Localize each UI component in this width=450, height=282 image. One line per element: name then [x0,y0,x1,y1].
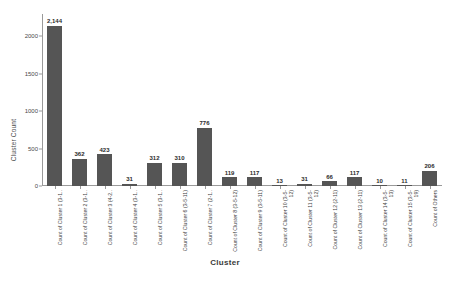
x-axis-tick-label: Count of Cluster 9 (3-5-11) [257,190,263,252]
bar[interactable] [72,159,88,186]
bar-value-label: 11 [401,178,407,184]
x-axis-tick-mark [355,186,356,189]
x-axis-tick-labels: Count of Cluster 1 (3-1..Count of Cluste… [42,190,442,252]
bar-value-label: 362 [74,151,84,157]
x-axis-tick-mark [330,186,331,189]
bar-group[interactable]: 119 [222,14,238,186]
bar[interactable] [347,177,363,186]
y-axis-tick-mark [39,73,42,74]
bar[interactable] [147,163,163,186]
bar-group[interactable]: 10 [372,14,388,186]
bar[interactable] [222,177,238,186]
bar-group[interactable]: 117 [247,14,263,186]
bar-value-label: 117 [350,170,360,176]
bar-value-label: 13 [276,178,283,184]
bar-value-label: 310 [174,155,184,161]
bar-value-label: 2,144 [47,18,62,24]
bar-value-label: 119 [225,170,235,176]
x-axis-tick-mark [305,186,306,189]
x-axis-tick-label: Count of Cluster 8 (3-5-12) [232,190,238,252]
x-axis-tick-mark [405,186,406,189]
bar-value-label: 66 [326,174,333,180]
y-axis-tick-label: 2000 [25,33,38,39]
bar-value-label: 117 [250,170,260,176]
bar[interactable] [97,154,113,186]
y-axis-tick-label: 0 [35,183,38,189]
bar-group[interactable]: 423 [97,14,113,186]
bar[interactable] [47,26,63,186]
x-axis-tick-mark [255,186,256,189]
y-axis-tick-label: 1000 [25,108,38,114]
y-axis-tick-label: 500 [28,146,38,152]
y-axis-tick-mark [39,111,42,112]
x-axis-tick-label: Count of Cluster 15 (3-5-19) [407,190,419,252]
x-axis-tick-label: Count of Cluster 4 (3-1.. [132,190,138,252]
y-axis-tick-mark [39,186,42,187]
bar-group[interactable]: 11 [397,14,413,186]
bar-value-label: 31 [301,176,308,182]
bar-group[interactable]: 66 [322,14,338,186]
x-axis-tick-label: Count of Cluster 1 (3-1.. [57,190,63,252]
x-axis-title: Cluster [0,258,450,267]
bar-value-label: 776 [199,120,209,126]
x-axis-tick-label: Count of Cluster 11 (3-5-12) [307,190,319,252]
bar[interactable] [172,163,188,186]
bar-value-label: 31 [126,176,133,182]
bar[interactable] [247,177,263,186]
x-axis-tick-label: Count of Cluster 5 (3-1.. [157,190,163,252]
bar[interactable] [422,171,438,186]
bar-value-label: 423 [99,147,109,153]
x-axis-tick-label: Count of Cluster 12 (2-11) [332,190,338,252]
bar-value-label: 10 [376,178,383,184]
bars-container: 2,14436242331312310776119117133166117101… [42,14,442,186]
bar-group[interactable]: 117 [347,14,363,186]
bar-group[interactable]: 31 [297,14,313,186]
bar-value-label: 206 [424,163,434,169]
bar[interactable] [197,128,213,186]
x-axis-tick-label: Count of Cluster 7 (2-1.. [207,190,213,252]
x-axis-tick-label: Count of Cluster 10 (3-5-12) [282,190,294,252]
x-axis-tick-label: Count of Others [432,190,438,252]
bar-group[interactable]: 776 [197,14,213,186]
x-axis-tick-label: Count of Cluster 2 (3-1.. [82,190,88,252]
x-axis-tick-label: Count of Cluster 3 (4-2.. [107,190,113,252]
y-axis-tick-mark [39,148,42,149]
x-axis-tick-mark [105,186,106,189]
x-axis-tick-mark [230,186,231,189]
bar-group[interactable]: 206 [422,14,438,186]
bar-group[interactable]: 312 [147,14,163,186]
y-axis-title: Cluster Count [10,80,17,200]
x-axis-tick-mark [55,186,56,189]
x-axis-tick-mark [130,186,131,189]
y-axis-tick-mark [39,36,42,37]
bar-group[interactable]: 362 [72,14,88,186]
bar-group[interactable]: 2,144 [47,14,63,186]
x-axis-tick-mark [80,186,81,189]
bar-value-label: 312 [149,155,159,161]
bar-chart: Cluster Count 2,144362423313123107761191… [0,0,450,282]
x-axis-tick-mark [180,186,181,189]
x-axis-tick-label: Count of Cluster 13 (2-11) [357,190,363,252]
x-axis-tick-mark [380,186,381,189]
bar-group[interactable]: 310 [172,14,188,186]
x-axis-tick-label: Count of Cluster 14 (3-5-13) [382,190,394,252]
x-axis-tick-mark [205,186,206,189]
bar-group[interactable]: 13 [272,14,288,186]
x-axis-tick-mark [155,186,156,189]
plot-area: 2,14436242331312310776119117133166117101… [42,14,442,186]
y-axis-tick-label: 1500 [25,71,38,77]
x-axis-tick-label: Count of Cluster 6 (3-5-11) [182,190,188,252]
x-axis-tick-mark [280,186,281,189]
x-axis-tick-mark [430,186,431,189]
bar-group[interactable]: 31 [122,14,138,186]
